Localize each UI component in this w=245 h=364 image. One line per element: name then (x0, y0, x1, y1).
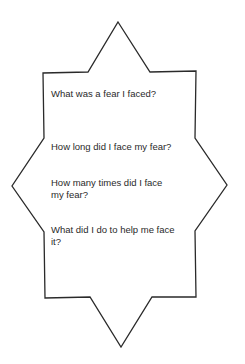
question-how-long: How long did I face my fear? (51, 141, 201, 153)
question-fear-faced: What was a fear I faced? (51, 88, 201, 100)
question-how-many-times: How many times did I face my fear? (51, 177, 177, 201)
question-what-helped: What did I do to help me face it? (51, 224, 177, 248)
